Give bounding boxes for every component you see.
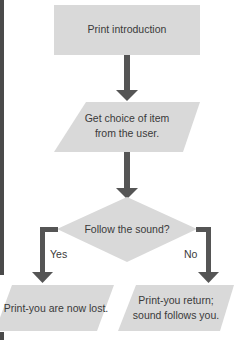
label-print-introduction: Print introduction [54, 22, 200, 37]
label-get-choice-line1: Get choice of item [54, 111, 200, 126]
arrow-shaft [124, 152, 130, 190]
label-you-return-line1: Print-you return; [120, 293, 232, 308]
edge-label-yes: Yes [50, 247, 74, 262]
arrow-head-icon [116, 90, 138, 101]
no-branch-vertical [206, 227, 211, 274]
flowchart-canvas [0, 0, 234, 340]
label-you-return-line2: sound follows you. [120, 308, 232, 323]
label-get-choice-line2: from the user. [54, 126, 200, 141]
arrow-head-icon [198, 272, 219, 283]
edge-label-no: No [184, 247, 204, 262]
yes-branch-vertical [40, 227, 45, 274]
arrow-shaft [124, 55, 130, 91]
label-you-are-lost: Print-you are now lost. [0, 301, 112, 316]
arrow-head-icon [32, 272, 53, 283]
label-follow-the-sound: Follow the sound? [57, 222, 197, 237]
